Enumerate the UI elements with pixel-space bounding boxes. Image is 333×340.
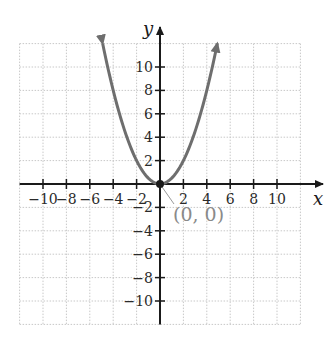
x-axis-label: x	[313, 188, 323, 209]
y-tick-label: 2	[144, 153, 153, 169]
y-tick-label: 6	[144, 106, 153, 122]
y-tick-label: 8	[144, 82, 153, 98]
y-tick-label: −6	[132, 246, 153, 262]
vertex-point	[156, 180, 164, 188]
x-tick-label: −8	[56, 191, 77, 207]
x-tick-labels: −10−8−6−4−2246810	[28, 191, 286, 207]
x-tick-label: 8	[249, 191, 258, 207]
x-tick-label: −10	[28, 191, 58, 207]
y-tick-label: −8	[132, 270, 153, 286]
x-tick-label: −4	[103, 191, 124, 207]
y-tick-label: 4	[144, 129, 153, 145]
y-axis-label: y	[142, 18, 154, 39]
x-tick-label: 6	[226, 191, 235, 207]
x-tick-label: 10	[268, 191, 286, 207]
parabola-graph: −10−8−6−4−2246810 −10−8−6−4−2246810 (0, …	[0, 0, 333, 340]
y-tick-label: −10	[123, 293, 153, 309]
y-tick-label: 10	[135, 59, 153, 75]
y-tick-label: −4	[132, 223, 153, 239]
x-tick-label: −6	[79, 191, 100, 207]
vertex-label: (0, 0)	[173, 203, 224, 225]
y-tick-label: −2	[132, 199, 153, 215]
